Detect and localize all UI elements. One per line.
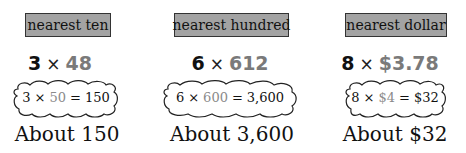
estimate-cloud: 8×$4=$32 xyxy=(342,79,448,119)
times-sign: × xyxy=(359,54,373,74)
estimate-result: 3,600 xyxy=(247,90,284,105)
times-sign: × xyxy=(210,54,224,74)
problem: 8×$3.78 xyxy=(320,52,460,74)
example-nearest-hundred: nearest hundred 6×612 6×600=3,600 About … xyxy=(150,0,320,153)
answer: About $32 xyxy=(320,122,466,146)
estimate-cloud: 6×600=3,600 xyxy=(160,79,300,119)
factor: 6 xyxy=(191,52,204,74)
number: 48 xyxy=(66,52,92,74)
factor: 8 xyxy=(341,52,354,74)
problem: 3×48 xyxy=(0,52,120,74)
equals-sign: = xyxy=(70,90,81,105)
number: $3.78 xyxy=(379,52,439,74)
factor: 3 xyxy=(28,52,41,74)
equals-sign: = xyxy=(232,90,243,105)
estimate-factor: 8 xyxy=(351,90,359,105)
rounded-number: $4 xyxy=(378,90,395,105)
example-nearest-dollar: nearest dollar 8×$3.78 8×$4=$32 About $3… xyxy=(320,0,466,153)
estimate-result: $32 xyxy=(414,90,439,105)
problem: 6×612 xyxy=(150,52,310,74)
rounding-label: nearest hundred xyxy=(174,13,289,37)
times-sign: × xyxy=(188,90,199,105)
rounding-label: nearest dollar xyxy=(345,13,447,37)
answer: About 3,600 xyxy=(150,122,314,146)
rounding-label-text: nearest ten xyxy=(28,17,109,33)
equals-sign: = xyxy=(399,90,410,105)
times-sign: × xyxy=(46,54,60,74)
estimate-equation: 6×600=3,600 xyxy=(160,90,300,105)
rounding-label-text: nearest hundred xyxy=(173,17,291,33)
estimate-equation: 8×$4=$32 xyxy=(342,90,448,105)
rounding-label: nearest ten xyxy=(25,13,111,37)
estimate-cloud: 3×50=150 xyxy=(10,79,122,119)
estimate-equation: 3×50=150 xyxy=(10,90,122,105)
rounded-number: 600 xyxy=(203,90,228,105)
estimate-factor: 6 xyxy=(176,90,184,105)
times-sign: × xyxy=(364,90,375,105)
times-sign: × xyxy=(35,90,46,105)
estimate-result: 150 xyxy=(85,90,110,105)
number: 612 xyxy=(229,52,269,74)
example-nearest-ten: nearest ten 3×48 3×50=150 About 150 xyxy=(0,0,160,153)
rounded-number: 50 xyxy=(49,90,66,105)
answer: About 150 xyxy=(0,122,134,146)
rounding-label-text: nearest dollar xyxy=(346,17,445,33)
estimate-factor: 3 xyxy=(22,90,30,105)
